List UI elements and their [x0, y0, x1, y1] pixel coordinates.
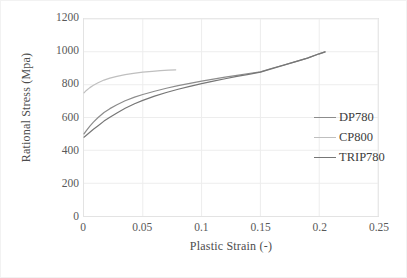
legend-item[interactable]: CP800 — [314, 127, 406, 147]
x-tick-label: 0 — [80, 222, 86, 234]
y-axis-title: Rational Stress (Mpa) — [19, 3, 34, 213]
y-tick-label: 200 — [35, 178, 79, 190]
x-tick-label: 0.15 — [251, 222, 271, 234]
x-axis-title: Plastic Strain (-) — [83, 239, 379, 254]
chart-figure: 020040060080010001200 00.050.10.150.20.2… — [0, 0, 407, 278]
y-axis-tick-labels: 020040060080010001200 — [31, 18, 79, 217]
x-tick-label: 0.1 — [194, 222, 208, 234]
y-tick-label: 600 — [35, 112, 79, 124]
legend-item[interactable]: TRIP780 — [314, 147, 406, 167]
x-axis-tick-labels: 00.050.10.150.20.25 — [83, 222, 379, 238]
legend-label: CP800 — [339, 131, 373, 144]
series-line-trip780 — [84, 52, 325, 137]
legend-label: TRIP780 — [339, 151, 385, 164]
y-tick-label: 1000 — [35, 45, 79, 57]
chart-legend: DP780CP800TRIP780 — [314, 107, 406, 167]
legend-label: DP780 — [339, 111, 374, 124]
y-tick-label: 800 — [35, 79, 79, 91]
x-tick-label: 0.05 — [132, 222, 152, 234]
x-tick-label: 0.2 — [313, 222, 327, 234]
y-tick-label: 1200 — [35, 12, 79, 24]
y-tick-label: 0 — [35, 211, 79, 223]
legend-line-swatch — [314, 137, 336, 138]
x-tick-label: 0.25 — [369, 222, 389, 234]
y-tick-label: 400 — [35, 145, 79, 157]
legend-line-swatch — [314, 157, 336, 158]
legend-item[interactable]: DP780 — [314, 107, 406, 127]
legend-line-swatch — [314, 117, 336, 118]
